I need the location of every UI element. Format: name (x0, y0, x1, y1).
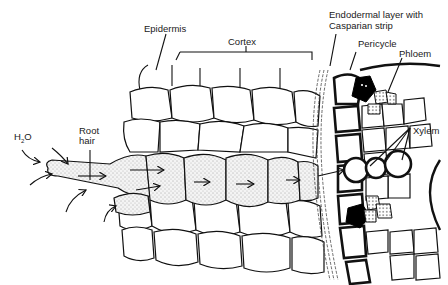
water-label: H2O (14, 131, 32, 147)
epidermis-label: Epidermis (144, 23, 186, 34)
pericycle-label: Pericycle (358, 38, 397, 49)
phloem-label: Phloem (399, 48, 431, 59)
root-hair-label: Root hair (79, 126, 99, 146)
endodermis-label: Endodermal layer with Casparian strip (329, 9, 423, 31)
cortex-label: Cortex (228, 36, 256, 47)
xylem-label: Xylem (413, 125, 439, 136)
